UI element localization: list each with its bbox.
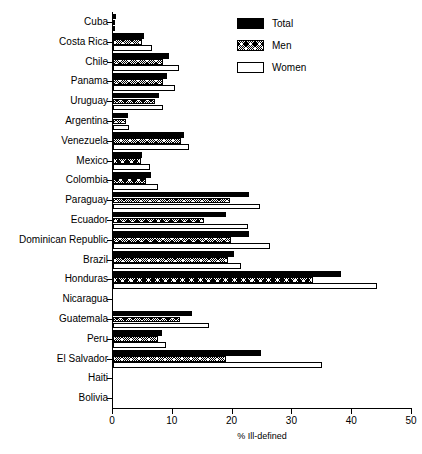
x-axis-line (112, 408, 412, 409)
bar-women (113, 362, 322, 368)
y-axis-tick (107, 101, 112, 102)
bar-total (113, 271, 341, 277)
bar-total (113, 14, 116, 20)
bar-men (113, 237, 231, 243)
y-axis-tick (107, 240, 112, 241)
bar-women (113, 65, 179, 71)
bar-total (113, 113, 128, 119)
bar-women (113, 45, 152, 51)
y-axis-category-label: Peru (0, 334, 108, 344)
bar-total (113, 152, 142, 158)
legend-label: Women (272, 62, 306, 74)
y-axis-tick (107, 141, 112, 142)
bar-total (113, 330, 162, 336)
bar-total (113, 192, 249, 198)
bar-men (113, 336, 158, 342)
bar-men (113, 99, 155, 105)
x-axis-tick (232, 409, 233, 414)
x-axis-tick-label: 20 (212, 415, 252, 426)
bar-men (113, 277, 313, 283)
bar-men (113, 59, 163, 65)
bar-women (113, 224, 248, 230)
x-axis-tick (351, 409, 352, 414)
legend-label: Men (272, 40, 291, 52)
y-axis-category-label: Bolivia (0, 393, 108, 403)
y-axis-tick (107, 378, 112, 379)
bar-women (113, 85, 175, 91)
bar-women (113, 105, 163, 111)
y-axis-tick (107, 220, 112, 221)
y-axis-category-label: El Salvador (0, 354, 108, 364)
bar-men (113, 356, 226, 362)
x-axis-tick (112, 409, 113, 414)
bar-total (113, 350, 261, 356)
x-axis-tick-label: 10 (152, 415, 192, 426)
bar-women (113, 125, 129, 131)
x-axis-tick (172, 409, 173, 414)
x-axis-tick (291, 409, 292, 414)
bar-total (113, 93, 159, 99)
y-axis-tick (107, 339, 112, 340)
y-axis-tick (107, 180, 112, 181)
bar-chart: CubaCosta RicaChilePanamaUruguayArgentin… (0, 0, 422, 454)
bar-women (113, 164, 150, 170)
bar-total (113, 212, 226, 218)
bar-women (113, 243, 270, 249)
x-axis-tick-label: 40 (331, 415, 371, 426)
bar-women (113, 184, 158, 190)
y-axis-category-label: Honduras (0, 274, 108, 284)
bar-men (113, 39, 142, 45)
bar-total (113, 311, 192, 317)
bar-men (113, 178, 146, 184)
y-axis-tick (107, 359, 112, 360)
bar-men (113, 119, 126, 125)
bar-men (113, 218, 204, 224)
y-axis-category-label: Brazil (0, 255, 108, 265)
y-axis-tick (107, 42, 112, 43)
y-axis-tick (107, 121, 112, 122)
y-axis-category-label: Cuba (0, 17, 108, 27)
x-axis-tick-label: 0 (92, 415, 132, 426)
y-axis-category-label: Paraguay (0, 195, 108, 205)
bar-women (113, 204, 260, 210)
y-axis-category-label: Uruguay (0, 96, 108, 106)
bar-total (113, 132, 184, 138)
y-axis-category-label: Costa Rica (0, 37, 108, 47)
bar-women (113, 144, 189, 150)
legend-swatch-men (237, 40, 264, 51)
bar-men (113, 317, 180, 323)
y-axis-tick (107, 260, 112, 261)
y-axis-category-label: Haiti (0, 373, 108, 383)
y-axis-tick (107, 161, 112, 162)
x-axis-tick-label: 30 (271, 415, 311, 426)
bar-men (113, 198, 230, 204)
legend-swatch-women (237, 62, 264, 73)
x-axis-title: % Ill-defined (112, 431, 412, 441)
y-axis-tick (107, 319, 112, 320)
bar-women (113, 263, 241, 269)
y-axis-tick (107, 279, 112, 280)
bar-men (113, 158, 141, 164)
bar-women (113, 323, 209, 329)
y-axis-category-label: Colombia (0, 175, 108, 185)
y-axis-category-label: Nicaragua (0, 294, 108, 304)
x-axis-tick (411, 409, 412, 414)
y-axis-category-label: Chile (0, 57, 108, 67)
bar-total (113, 33, 144, 39)
bar-women (113, 283, 377, 289)
y-axis-category-label: Dominican Republic (0, 235, 108, 245)
bar-women (113, 342, 166, 348)
y-axis-category-label: Panama (0, 76, 108, 86)
bar-total (113, 231, 249, 237)
y-axis-tick (107, 398, 112, 399)
y-axis-category-label: Argentina (0, 116, 108, 126)
y-axis-tick (107, 200, 112, 201)
bar-total (113, 251, 234, 257)
bar-men (113, 79, 163, 85)
y-axis-tick (107, 22, 112, 23)
legend-label: Total (272, 18, 293, 30)
y-axis-tick (107, 299, 112, 300)
y-axis-tick (107, 62, 112, 63)
bar-total (113, 172, 151, 178)
bar-men (113, 257, 228, 263)
